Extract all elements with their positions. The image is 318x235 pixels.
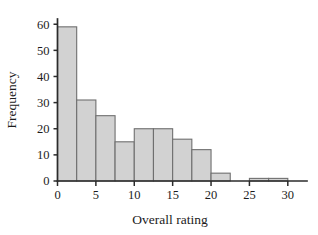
x-axis-title: Overall rating [132, 212, 208, 227]
y-tick-label: 50 [37, 44, 50, 58]
histogram-bar [58, 27, 77, 181]
histogram-bar [211, 173, 230, 181]
y-tick-label: 60 [37, 18, 50, 32]
histogram-bar [77, 100, 96, 181]
y-tick-label: 0 [43, 174, 49, 188]
y-axis-title: Frequency [4, 71, 19, 128]
y-tick-group: 0102030405060 [37, 18, 58, 189]
x-tick-label: 0 [54, 188, 60, 202]
x-tick-label: 30 [282, 188, 295, 202]
histogram-figure: 0102030405060 051015202530 Overall ratin… [0, 0, 318, 235]
x-tick-group: 051015202530 [54, 181, 294, 202]
histogram-bar [192, 150, 211, 181]
x-tick-label: 10 [128, 188, 141, 202]
histogram-bar [153, 129, 172, 181]
y-tick-label: 30 [37, 96, 50, 110]
x-tick-label: 15 [166, 188, 179, 202]
x-tick-label: 5 [93, 188, 99, 202]
y-tick-label: 20 [37, 122, 50, 136]
histogram-bar [134, 129, 153, 181]
histogram-bar [115, 142, 134, 181]
bars-group [58, 27, 288, 181]
histogram-bar [173, 139, 192, 181]
y-tick-label: 40 [37, 70, 50, 84]
x-tick-label: 25 [243, 188, 256, 202]
y-tick-label: 10 [37, 148, 50, 162]
histogram-bar [96, 116, 115, 181]
chart-canvas: 0102030405060 051015202530 Overall ratin… [0, 0, 318, 235]
x-tick-label: 20 [205, 188, 218, 202]
